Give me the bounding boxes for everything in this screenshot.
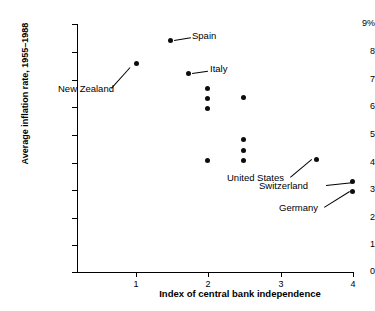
data-point bbox=[205, 86, 210, 91]
y-tick-1 bbox=[72, 245, 77, 246]
data-point-new-zealand bbox=[134, 61, 139, 66]
x-axis-line bbox=[77, 272, 354, 273]
y-tick-8 bbox=[72, 52, 77, 53]
y-tick-4 bbox=[72, 163, 77, 164]
y-axis-title: Average inflation rate, 1955–1988 bbox=[20, 23, 31, 165]
data-point-spain bbox=[168, 38, 173, 43]
point-label-italy: Italy bbox=[210, 64, 227, 74]
y-tick-label-7: 7 bbox=[349, 75, 375, 84]
point-label-new-zealand: New Zealand bbox=[58, 84, 114, 94]
leader-line-italy bbox=[192, 71, 208, 74]
y-tick-label-4: 4 bbox=[349, 158, 375, 167]
y-tick-label-2: 2 bbox=[349, 213, 375, 222]
scatter-chart: 9% 8 7 6 5 4 3 2 1 0 1 2 3 4 bbox=[0, 0, 375, 311]
y-tick-6 bbox=[72, 107, 77, 108]
y-tick-7 bbox=[72, 80, 77, 81]
data-point bbox=[241, 95, 246, 100]
y-tick-label-5: 5 bbox=[349, 130, 375, 139]
y-tick-label-9: 9% bbox=[349, 19, 375, 28]
leader-line-spain bbox=[174, 37, 191, 41]
data-point bbox=[241, 148, 246, 153]
point-label-spain: Spain bbox=[192, 31, 216, 41]
y-tick-label-1: 1 bbox=[349, 240, 375, 249]
data-point bbox=[205, 106, 210, 111]
x-tick-3 bbox=[281, 272, 282, 277]
data-point-italy bbox=[186, 71, 191, 76]
data-point-germany bbox=[350, 189, 355, 194]
x-tick-2 bbox=[208, 272, 209, 277]
y-tick-5 bbox=[72, 135, 77, 136]
y-tick-9 bbox=[72, 24, 77, 25]
y-tick-label-8: 8 bbox=[349, 47, 375, 56]
x-tick-4 bbox=[353, 272, 354, 277]
y-tick-3 bbox=[72, 190, 77, 191]
x-axis-title: Index of central bank independence bbox=[120, 288, 360, 299]
point-label-germany: Germany bbox=[279, 203, 318, 213]
y-tick-2 bbox=[72, 218, 77, 219]
data-point bbox=[205, 96, 210, 101]
y-tick-label-6: 6 bbox=[349, 102, 375, 111]
data-point bbox=[205, 158, 210, 163]
data-point bbox=[241, 158, 246, 163]
data-point bbox=[241, 137, 246, 142]
leader-line-united-states bbox=[290, 159, 312, 178]
plot-area: 9% 8 7 6 5 4 3 2 1 0 1 2 3 4 bbox=[0, 0, 375, 311]
y-axis-line bbox=[77, 24, 78, 272]
y-tick-0 bbox=[72, 272, 77, 273]
leader-line-germany bbox=[324, 191, 350, 208]
x-tick-1 bbox=[136, 272, 137, 277]
data-point-united-states bbox=[314, 157, 319, 162]
point-label-switzerland: Switzerland bbox=[259, 181, 308, 191]
